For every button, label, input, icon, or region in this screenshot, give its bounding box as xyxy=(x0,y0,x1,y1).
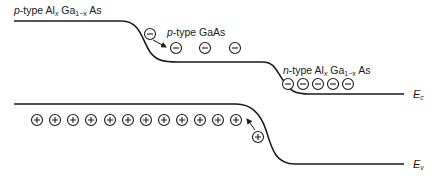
electrons-right xyxy=(283,79,354,90)
label-middle-region: p-type GaAs xyxy=(167,27,225,38)
electrons-middle xyxy=(171,43,241,54)
holes-left xyxy=(32,115,242,126)
hole-injection-arrow xyxy=(247,119,255,130)
label-conduction-band: Ec xyxy=(413,89,424,101)
electron-injected xyxy=(145,29,156,40)
valence-band-edge xyxy=(14,104,404,164)
label-right-region: n-type Alx Ga1−x As xyxy=(283,65,370,77)
label-valence-band: Ev xyxy=(413,159,424,171)
electron-injection-arrow xyxy=(153,40,166,47)
hole-injected xyxy=(253,132,264,143)
label-left-region: p-type Alx Ga1−x As xyxy=(14,5,101,17)
